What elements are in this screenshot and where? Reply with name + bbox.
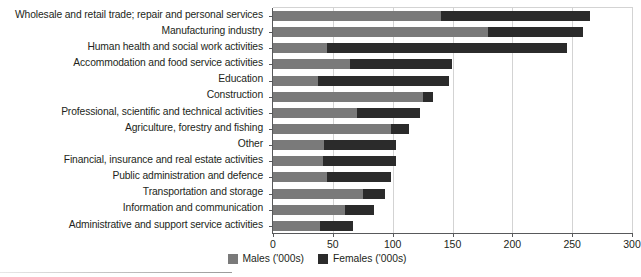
category-tick	[269, 16, 273, 17]
bar-row	[273, 24, 632, 40]
category-tick	[269, 48, 273, 49]
bar-segment-males	[273, 11, 441, 21]
legend-label-males: Males ('000s)	[243, 253, 304, 264]
bar-segment-females	[391, 124, 409, 134]
category-tick	[269, 226, 273, 227]
category-label: Construction	[0, 88, 268, 104]
bar-row	[273, 218, 632, 234]
x-axis-tick-label: 300	[623, 238, 641, 250]
category-tick	[269, 129, 273, 130]
bar-segment-females	[318, 76, 448, 86]
bar-stack	[273, 11, 590, 21]
category-tick	[269, 32, 273, 33]
x-axis-tick	[512, 233, 513, 237]
bar-segment-females	[441, 11, 591, 21]
bar-stack	[273, 76, 449, 86]
bar-segment-females	[357, 108, 420, 118]
bar-segment-males	[273, 43, 327, 53]
category-label: Wholesale and retail trade; repair and p…	[0, 7, 268, 23]
category-tick	[269, 210, 273, 211]
bar-segment-males	[273, 140, 324, 150]
bar-stack	[273, 172, 391, 182]
bar-segment-females	[350, 59, 453, 69]
bar-segment-females	[488, 27, 583, 37]
bar-row	[273, 169, 632, 185]
x-axis-tick	[572, 233, 573, 237]
bar-row	[273, 186, 632, 202]
gridline	[632, 8, 633, 234]
bar-row	[273, 121, 632, 137]
bar-stack	[273, 156, 396, 166]
bar-row	[273, 56, 632, 72]
bar-segment-males	[273, 92, 423, 102]
legend-item-males: Males ('000s)	[228, 253, 304, 264]
x-axis-tick-label: 150	[444, 238, 462, 250]
bar-segment-males	[273, 124, 391, 134]
bar-row	[273, 153, 632, 169]
bar-stack	[273, 124, 409, 134]
bar-segment-females	[324, 140, 396, 150]
x-axis-tick	[333, 233, 334, 237]
bar-series-group	[273, 8, 632, 234]
category-tick	[269, 81, 273, 82]
bar-stack	[273, 27, 583, 37]
bar-segment-females	[327, 172, 392, 182]
bar-segment-males	[273, 59, 350, 69]
category-label: Professional, scientific and technical a…	[0, 104, 268, 120]
x-axis-tick	[453, 233, 454, 237]
bar-segment-females	[327, 43, 568, 53]
bar-segment-males	[273, 221, 320, 231]
category-tick	[269, 113, 273, 114]
category-label: Public administration and defence	[0, 168, 268, 184]
bar-stack	[273, 92, 433, 102]
bar-segment-males	[273, 76, 318, 86]
bar-stack	[273, 43, 567, 53]
category-tick	[269, 177, 273, 178]
plot-area	[273, 7, 633, 234]
bar-segment-males	[273, 156, 323, 166]
bar-segment-males	[273, 172, 327, 182]
bar-stack	[273, 205, 374, 215]
category-label: Administrative and support service activ…	[0, 217, 268, 233]
bar-row	[273, 202, 632, 218]
bar-stack	[273, 221, 353, 231]
bar-segment-females	[345, 205, 374, 215]
female-swatch-icon	[318, 254, 328, 264]
x-axis-tick	[632, 233, 633, 237]
category-label: Accommodation and food service activitie…	[0, 55, 268, 71]
category-label: Transportation and storage	[0, 185, 268, 201]
bar-segment-males	[273, 205, 345, 215]
bar-row	[273, 89, 632, 105]
legend-item-females: Females ('000s)	[318, 253, 407, 264]
bar-stack	[273, 108, 420, 118]
category-label: Education	[0, 72, 268, 88]
x-axis-tick-label: 250	[563, 238, 581, 250]
x-axis-tick	[273, 233, 274, 237]
bar-segment-females	[363, 189, 386, 199]
x-axis-tick-label: 200	[504, 238, 522, 250]
category-label: Manufacturing industry	[0, 23, 268, 39]
bar-stack	[273, 140, 396, 150]
category-tick	[269, 64, 273, 65]
category-tick	[269, 161, 273, 162]
bar-segment-males	[273, 108, 357, 118]
bar-stack	[273, 189, 385, 199]
category-tick	[269, 97, 273, 98]
bottom-divider	[0, 272, 232, 273]
bar-row	[273, 137, 632, 153]
category-label: Financial, insurance and real estate act…	[0, 152, 268, 168]
bar-segment-females	[323, 156, 396, 166]
x-axis-tick	[393, 233, 394, 237]
category-tick	[269, 145, 273, 146]
category-axis-labels: Wholesale and retail trade; repair and p…	[0, 7, 268, 233]
chart-legend: Males ('000s) Females ('000s)	[0, 253, 634, 264]
x-axis-tick-label: 0	[270, 238, 276, 250]
category-tick	[269, 194, 273, 195]
bar-segment-females	[320, 221, 354, 231]
bar-row	[273, 8, 632, 24]
category-label: Other	[0, 136, 268, 152]
x-axis-tick-label: 100	[384, 238, 402, 250]
bar-segment-males	[273, 27, 488, 37]
bar-row	[273, 105, 632, 121]
